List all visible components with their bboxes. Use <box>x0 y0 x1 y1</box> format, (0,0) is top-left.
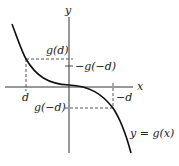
odd-function-graph: y x g(d) −g(−d) g(−d) d −d y = g(x) <box>0 0 179 166</box>
label-neg-d: −d <box>116 91 132 104</box>
x-axis-label: x <box>137 80 144 93</box>
curve-label: y = g(x) <box>129 127 174 140</box>
label-g-d: g(d) <box>46 44 69 57</box>
y-axis-label: y <box>64 4 72 17</box>
label-neg-g-neg-d: −g(−d) <box>75 60 116 73</box>
label-g-neg-d: g(−d) <box>34 101 66 114</box>
label-d: d <box>22 91 29 104</box>
